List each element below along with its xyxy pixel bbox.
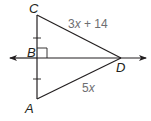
right-angle-mark	[37, 48, 47, 58]
segment-cd-expression: 3x + 14	[68, 17, 108, 31]
vertex-label-a: A	[24, 101, 34, 116]
vertex-label-c: C	[29, 1, 39, 16]
vertex-label-d: D	[116, 60, 125, 75]
vertex-label-b: B	[27, 45, 36, 60]
segment-ad-expression: 5x	[82, 81, 96, 95]
segment-ad	[37, 58, 121, 99]
geometry-diagram: C B D A 3x + 14 5x	[0, 0, 151, 121]
